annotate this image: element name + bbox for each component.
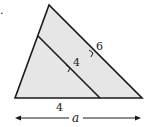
similar-triangles-diagram: . 6 4 4 a [0, 0, 150, 127]
outer-side-label: 6 [96, 40, 103, 53]
dimension-label: a [72, 111, 79, 125]
outer-triangle [15, 5, 142, 98]
inner-side-label: 4 [73, 56, 80, 69]
arrow-left-icon [15, 116, 21, 121]
problem-marker: . [0, 4, 4, 17]
base-segment-label: 4 [56, 101, 63, 114]
arrow-right-icon [135, 116, 141, 121]
